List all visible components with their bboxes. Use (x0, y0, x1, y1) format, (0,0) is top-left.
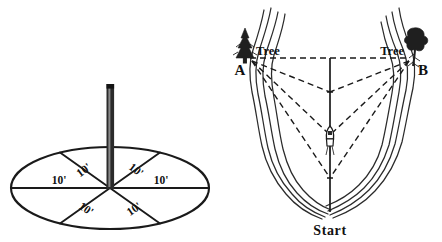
point-label-a: A (235, 62, 246, 78)
sight-line-b-2 (330, 61, 409, 135)
boat-cabin (328, 131, 332, 135)
start-label: Start (313, 223, 346, 238)
boat-stern (327, 139, 334, 146)
radius-label-northwest: 10' (74, 161, 93, 179)
point-label-b: B (418, 62, 428, 78)
shoreline-left-contour-3 (263, 12, 328, 214)
pole-highlight (108, 88, 110, 187)
figure-root: 10' 10' 10' 10' 10' 10' (0, 0, 442, 242)
boat-icon (326, 126, 334, 156)
sight-line-b-3 (330, 61, 409, 178)
radius-label-southeast: 10' (124, 200, 143, 218)
sight-line-b-1 (330, 61, 409, 92)
pine-tree-canopy (236, 28, 254, 58)
boat-wake (326, 146, 334, 156)
tree-label-left: Tree (256, 44, 280, 58)
pole-top-cap (107, 84, 115, 89)
shoreline-right-contour-2 (330, 12, 408, 215)
right-panel-group: Tree Tree A B Start (233, 8, 428, 238)
radius-label-west: 10' (52, 174, 67, 186)
radius-label-northeast: 10' (127, 161, 146, 179)
shoreline-left-group (250, 8, 331, 219)
vertical-pole (107, 84, 115, 189)
sight-line-a-3 (252, 61, 330, 178)
shoreline-left-contour-4 (271, 14, 331, 210)
sight-lines-from-b (330, 61, 409, 178)
leafy-tree-canopy (404, 28, 427, 51)
radius-label-east: 10' (154, 174, 169, 186)
tree-label-right: Tree (380, 44, 404, 58)
radius-label-southwest: 10' (77, 200, 96, 218)
left-panel-group: 10' 10' 10' 10' 10' 10' (11, 84, 209, 229)
pine-tree-icon (233, 28, 257, 63)
illustration-canvas: 10' 10' 10' 10' 10' 10' (0, 0, 442, 242)
shoreline-right-group (326, 8, 415, 218)
sight-lines-from-a (252, 61, 330, 178)
